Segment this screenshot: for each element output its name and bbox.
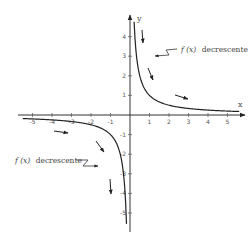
x-tick-label: -4 [49,118,55,125]
x-tick-label: 1 [148,118,152,125]
x-axis: -5-4-3-2-112345 x [18,100,245,125]
arrow-down-icon [142,30,143,43]
y-tick-label: -5 [120,209,126,216]
annotation-func: f (x) [14,156,30,165]
function-graph: -5-4-3-2-112345 x 4321-1-2-3-4-5 y f (x)… [0,0,250,242]
x-tick-label: 3 [187,118,191,125]
x-tick-label: 2 [167,118,171,125]
arrow-right-down-icon [54,131,68,133]
curve-negative-branch [23,119,127,224]
x-tick-label: -1 [108,118,114,125]
y-tick-label: -1 [120,131,126,138]
arrow-down-icon [110,179,111,194]
x-tick-label: 5 [226,118,230,125]
zigzag-leader-icon [155,49,177,56]
annotation-upper-right: f (x) decrescente [155,45,248,56]
annotation-func: f (x) [180,45,196,54]
y-axis-label: y [136,14,142,23]
y-tick-label: 1 [122,91,126,98]
y-tick-label: 2 [122,72,126,79]
y-tick-label: 3 [122,52,126,59]
annotation-lower-left: f (x) decrescente [14,156,98,166]
arrow-down-right-icon [96,141,104,152]
arrow-down-right-icon [148,68,153,80]
y-tick-label: 4 [122,33,126,40]
svg-text:f (x) decrescente: f (x) decrescente [14,156,82,165]
annotation-word: decrescente [36,156,83,165]
y-axis: 4321-1-2-3-4-5 y [120,14,142,232]
annotation-word: decrescente [202,45,249,54]
svg-text:f (x) decrescente: f (x) decrescente [180,45,248,54]
arrow-right-down-icon [175,95,188,99]
curve-positive-branch [134,22,239,112]
x-tick-label: 4 [206,118,210,125]
x-axis-label: x [238,100,243,109]
